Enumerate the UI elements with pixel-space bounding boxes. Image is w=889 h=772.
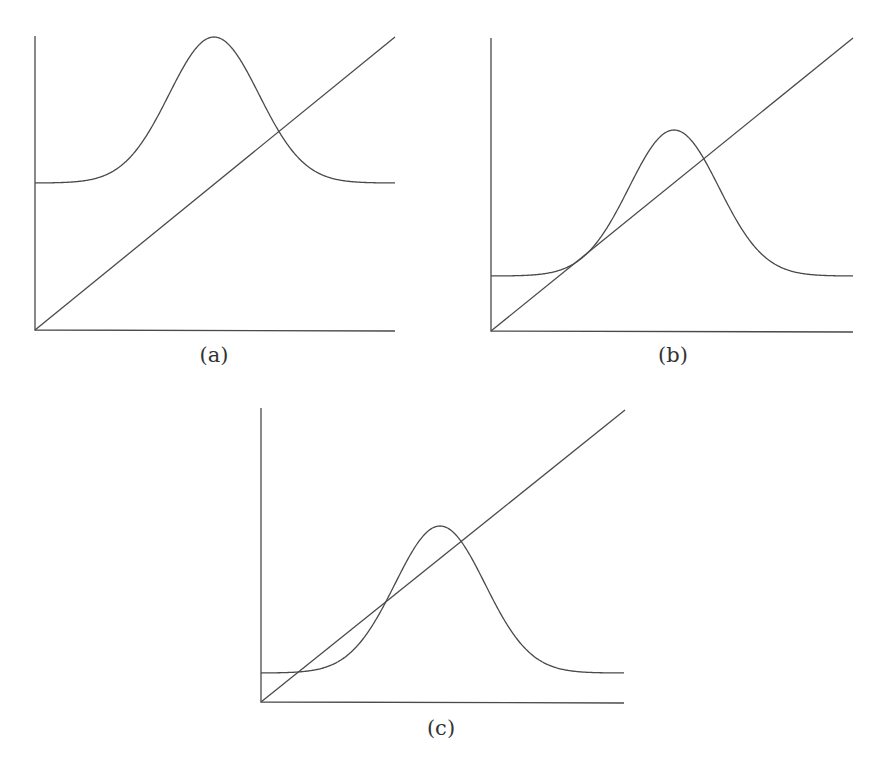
panel-c: [261, 408, 625, 703]
panel-a: [35, 36, 395, 331]
panel-label-a: (a): [200, 345, 229, 366]
linear-line-b: [491, 38, 853, 331]
figure-canvas: [0, 0, 889, 772]
gaussian-curve-c: [261, 526, 624, 673]
panel-label-c: (c): [427, 718, 455, 739]
panel-label-b: (b): [658, 345, 688, 366]
linear-line-a: [35, 37, 395, 330]
panel-b: [491, 38, 853, 332]
linear-line-c: [261, 410, 625, 702]
gaussian-curve-b: [491, 130, 853, 276]
gaussian-curve-a: [35, 37, 395, 183]
